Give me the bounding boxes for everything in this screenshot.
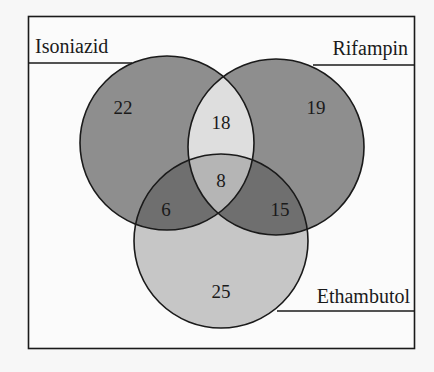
all-three-count: 8 bbox=[216, 170, 226, 191]
rifampin-label: Rifampin bbox=[332, 37, 408, 60]
venn-diagram: Isoniazid Rifampin Ethambutol 22 19 18 8… bbox=[0, 0, 434, 372]
isoniazid-label: Isoniazid bbox=[35, 35, 108, 57]
isoniazid-only-count: 22 bbox=[114, 97, 133, 118]
rifampin-ethambutol-count: 15 bbox=[271, 199, 290, 220]
isoniazid-ethambutol-count: 6 bbox=[161, 199, 171, 220]
isoniazid-rifampin-count: 18 bbox=[212, 112, 231, 133]
ethambutol-only-count: 25 bbox=[212, 281, 231, 302]
ethambutol-label: Ethambutol bbox=[317, 285, 411, 307]
rifampin-only-count: 19 bbox=[307, 97, 326, 118]
